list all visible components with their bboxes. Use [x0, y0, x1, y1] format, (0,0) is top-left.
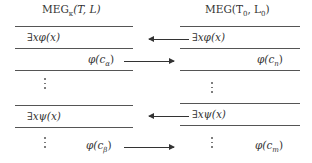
cell-phi-c-n: φ(cn) — [257, 53, 283, 68]
divider — [180, 125, 300, 126]
right-table-title: MEG(T0, L0) — [205, 3, 305, 18]
title-text: ) — [266, 3, 270, 15]
text: φ(c — [257, 53, 274, 65]
cell-phi-c-m: φ(cm) — [255, 139, 283, 154]
text: φ(c — [255, 139, 272, 151]
cell-exists-psi: ∃xψ(x) — [192, 108, 226, 120]
arrow-left-exists-psi — [149, 116, 189, 117]
divider — [15, 70, 133, 71]
title-args: (T, L) — [73, 3, 100, 15]
cell-exists-phi: ∃xφ(x) — [27, 31, 60, 43]
text: φ(c — [86, 139, 103, 151]
divider — [180, 48, 300, 49]
cell-exists-psi: ∃xψ(x) — [27, 110, 61, 122]
text: ) — [279, 139, 283, 151]
arrow-right-phi-c-beta — [124, 147, 174, 148]
title-text: , L — [247, 3, 261, 15]
arrow-right-phi-c-alpha — [124, 61, 174, 62]
divider — [15, 48, 133, 49]
text: φ(c — [88, 53, 105, 65]
vertical-ellipsis — [44, 137, 46, 151]
cell-phi-c-beta: φ(cβ) — [86, 139, 112, 154]
cell-exists-phi: ∃xφ(x) — [192, 31, 225, 43]
cell-phi-c-alpha: φ(cα) — [88, 53, 114, 68]
subscript: m — [272, 146, 279, 154]
text: ) — [279, 53, 283, 65]
divider — [180, 70, 300, 71]
divider — [15, 26, 133, 27]
title-text: MEG(T — [205, 3, 243, 15]
title-text: MEG — [42, 3, 69, 15]
divider — [180, 26, 300, 27]
divider — [180, 103, 300, 104]
divider — [15, 127, 133, 128]
arrow-left-exists-phi — [149, 39, 189, 40]
vertical-ellipsis — [211, 137, 213, 151]
text: ) — [107, 139, 111, 151]
left-table-title: MEGκ(T, L) — [42, 3, 132, 18]
vertical-ellipsis — [44, 78, 46, 92]
divider — [15, 105, 133, 106]
vertical-ellipsis — [211, 82, 213, 96]
text: ) — [110, 53, 114, 65]
